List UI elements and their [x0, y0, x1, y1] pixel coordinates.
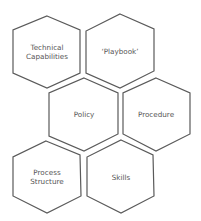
hex-playbook: ‘Playbook’ — [86, 14, 154, 88]
hex-label-line-1: Process — [33, 168, 61, 177]
hex-procedure: Procedure — [123, 78, 190, 151]
hex-label-line-2: Capabilities — [26, 52, 68, 61]
hexagon-diagram: Technical Capabilities ‘Playbook’ Policy… — [0, 0, 201, 221]
hex-skills: Skills — [87, 140, 154, 213]
hex-policy: Policy — [49, 78, 118, 151]
hex-label: Procedure — [138, 110, 175, 119]
hex-label: ‘Playbook’ — [101, 47, 138, 56]
hex-label-line-1: Technical — [29, 43, 63, 52]
hex-label: Policy — [74, 110, 95, 119]
hex-technical-capabilities: Technical Capabilities — [13, 16, 80, 88]
hex-process-structure: Process Structure — [13, 141, 81, 213]
hex-label: Skills — [112, 173, 131, 182]
hex-label-line-2: Structure — [30, 177, 64, 186]
